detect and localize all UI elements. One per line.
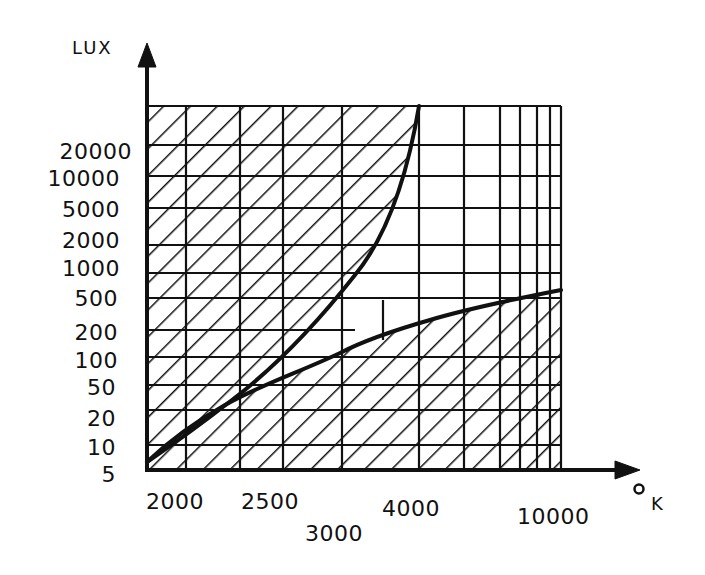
y-tick-100: 100 <box>75 348 119 373</box>
y-tick-20000: 20000 <box>60 139 133 164</box>
kruithof-chart: LUX K 20000 10000 5000 2000 1000 500 200… <box>0 0 705 575</box>
degree-symbol-icon <box>635 485 644 494</box>
y-tick-labels: 20000 10000 5000 2000 1000 500 200 100 5… <box>48 139 133 487</box>
y-tick-1000: 1000 <box>62 256 120 281</box>
x-tick-labels: 2000 2500 3000 4000 10000 <box>146 489 590 546</box>
y-tick-2000: 2000 <box>62 228 120 253</box>
x-axis-arrow-icon <box>615 461 640 479</box>
y-tick-10000: 10000 <box>48 166 121 191</box>
x-tick-10000: 10000 <box>517 504 590 529</box>
x-tick-2000: 2000 <box>146 489 204 514</box>
y-axis-arrow-icon <box>138 43 156 67</box>
x-tick-4000: 4000 <box>382 496 440 521</box>
y-tick-10: 10 <box>87 435 116 460</box>
x-tick-3000: 3000 <box>305 521 363 546</box>
y-tick-5000: 5000 <box>62 197 120 222</box>
x-tick-2500: 2500 <box>241 489 299 514</box>
y-tick-20: 20 <box>87 406 116 431</box>
y-tick-200: 200 <box>75 320 119 345</box>
y-tick-50: 50 <box>87 375 116 400</box>
y-tick-5: 5 <box>102 462 117 487</box>
y-axis-title: LUX <box>72 37 113 58</box>
x-axis-title: K <box>651 493 665 514</box>
y-tick-500: 500 <box>75 286 119 311</box>
